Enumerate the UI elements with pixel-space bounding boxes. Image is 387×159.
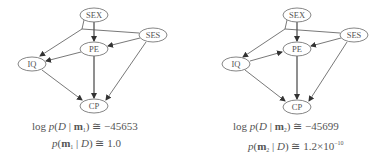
bayesian-network-m1: SEX SES PE IQ CP — [0, 0, 194, 118]
svg-text:SEX: SEX — [86, 10, 102, 20]
node-iq: IQ — [222, 57, 250, 71]
node-sex: SEX — [80, 8, 108, 22]
log-likelihood-m1: log p(D | m1) ≅ −45653 — [32, 120, 138, 136]
edge-ses-iq — [82, 29, 139, 33]
edge-ses-pe — [108, 38, 140, 46]
edge-iq-cp — [245, 70, 285, 101]
node-cp: CP — [80, 99, 108, 113]
edge-sex-iq — [243, 20, 287, 57]
node-sex: SEX — [283, 8, 311, 22]
edge-ses-pe — [311, 38, 341, 46]
edge-sex-iq — [40, 20, 84, 56]
bayesian-network-m2: SEX SES PE IQ CP — [193, 0, 387, 118]
edge-ses-cp — [309, 42, 347, 101]
edge-iq-pe — [250, 52, 282, 61]
model-1-panel: SEX SES PE IQ CP log p(D | m1) ≅ −45653 … — [0, 0, 194, 159]
svg-text:SES: SES — [347, 30, 362, 40]
svg-text:IQ: IQ — [28, 59, 37, 69]
posterior-m2: p(m2 | D) ≅ 1.2×10−10 — [248, 137, 344, 156]
svg-text:CP: CP — [89, 101, 100, 111]
edge-ses-iq — [285, 29, 340, 33]
node-cp: CP — [283, 100, 311, 114]
svg-text:PE: PE — [292, 44, 302, 54]
node-iq: IQ — [18, 57, 46, 71]
svg-text:SES: SES — [146, 30, 161, 40]
svg-text:PE: PE — [89, 44, 99, 54]
node-pe: PE — [80, 42, 108, 56]
svg-text:IQ: IQ — [232, 59, 241, 69]
edge-ses-cp — [106, 42, 146, 100]
log-likelihood-m2: log p(D | m2) ≅ −45699 — [233, 120, 339, 136]
node-ses: SES — [340, 28, 368, 42]
model-2-panel: SEX SES PE IQ CP log p(D | m2) ≅ −45699 … — [193, 0, 387, 159]
svg-text:SEX: SEX — [289, 10, 305, 20]
edge-pe-iq — [46, 52, 81, 61]
svg-text:CP: CP — [292, 102, 303, 112]
node-pe: PE — [283, 42, 311, 56]
edge-iq-cp — [42, 70, 82, 100]
node-ses: SES — [139, 28, 167, 42]
posterior-m1: p(m1 | D) ≅ 1.0 — [52, 137, 121, 153]
